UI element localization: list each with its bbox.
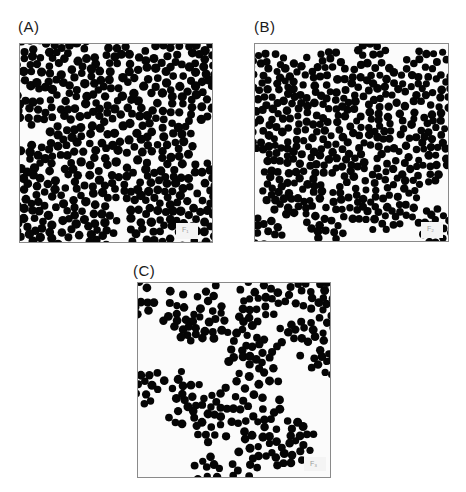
scale-inset-b: F₂	[421, 222, 443, 238]
inset-label: F₃	[310, 460, 317, 467]
panel-label-c: (C)	[133, 262, 155, 279]
panel-image-b	[254, 43, 449, 242]
panel-image-a	[19, 43, 213, 243]
panel-label-a: (A)	[18, 18, 40, 35]
particle-aggregate-a	[20, 44, 212, 242]
inset-label: F₂	[427, 225, 434, 232]
inset-label: F₁	[182, 226, 189, 233]
panel-label-b: (B)	[254, 18, 276, 35]
panel-image-c	[137, 282, 331, 478]
particle-aggregate-c	[138, 283, 330, 477]
scale-inset-c: F₃	[304, 457, 326, 471]
particle-aggregate-b	[255, 44, 448, 241]
scale-inset-a: F₁	[176, 223, 198, 239]
